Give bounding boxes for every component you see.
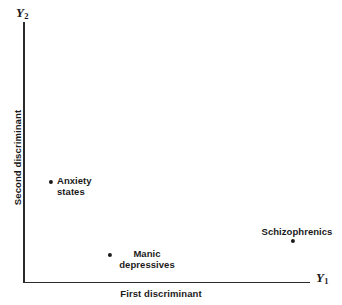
data-label-line-1: Manic [133, 248, 160, 259]
x-axis-title: First discriminant [101, 288, 221, 299]
data-point-manic-depressives [108, 253, 112, 257]
data-label-line-2: depressives [119, 259, 174, 270]
y-axis-line [23, 22, 25, 283]
x-axis-variable-label: Y1 [316, 271, 329, 286]
data-label-manic-depressives: Manic depressives [119, 248, 174, 271]
data-point-schizophrenics [291, 239, 295, 243]
data-label-anxiety-states: Anxiety states [57, 175, 92, 198]
y-axis-title: Second discriminant [12, 98, 23, 218]
data-label-line-1: Schizophrenics [262, 226, 333, 237]
data-label-line-2: states [57, 186, 92, 197]
data-label-schizophrenics: Schizophrenics [262, 226, 333, 237]
x-axis-variable-subscript: 1 [324, 276, 329, 286]
data-label-line-1: Anxiety [57, 175, 92, 186]
y-axis-variable-symbol: Y [16, 5, 24, 20]
x-axis-line [23, 282, 310, 284]
y-axis-variable-subscript: 2 [24, 11, 29, 21]
x-axis-variable-symbol: Y [316, 270, 324, 285]
scatter-plot-figure: Y2 Y1 Second discriminant First discrimi… [0, 0, 342, 305]
data-point-anxiety-states [49, 180, 53, 184]
y-axis-variable-label: Y2 [16, 6, 29, 21]
